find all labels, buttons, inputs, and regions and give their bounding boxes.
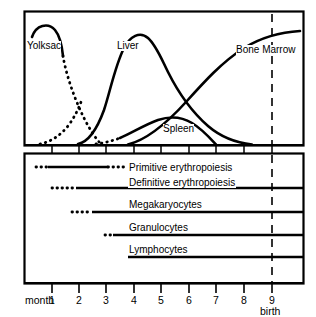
- figure-root: Yolksac Liver Bone Marrow Spleen Primiti…: [0, 0, 316, 317]
- upper-axis-ticks: [52, 146, 272, 153]
- x-tick-label-9: 9: [269, 295, 275, 306]
- x-tick-label-2: 2: [76, 295, 82, 306]
- bar-label-definitive-erythropoiesis: Definitive erythropoiesis: [128, 178, 236, 188]
- curve-label-liver: Liver: [117, 41, 139, 51]
- x-tick-label-4: 4: [131, 295, 137, 306]
- curve-label-spleen: Spleen: [163, 124, 194, 134]
- x-tick-label-7: 7: [213, 295, 219, 306]
- bar-label-primitive-erythropoiesis: Primitive erythropoiesis: [128, 163, 233, 173]
- birth-label: birth: [260, 306, 280, 317]
- x-tick-label-3: 3: [103, 295, 109, 306]
- x-tick-label-8: 8: [241, 295, 247, 306]
- curve-label-bone-marrow: Bone Marrow: [236, 45, 295, 55]
- x-tick-label-5: 5: [158, 295, 164, 306]
- x-tick-label-1: 1: [49, 295, 55, 306]
- bar-label-megakaryocytes: Megakaryocytes: [128, 200, 203, 210]
- bar-label-lymphocytes: Lymphocytes: [128, 245, 189, 255]
- bar-label-granulocytes: Granulocytes: [128, 223, 189, 233]
- curve-label-yolksac: Yolksac: [27, 41, 61, 51]
- x-axis-ticks: [52, 284, 272, 293]
- lower-panel-frame: [25, 154, 304, 284]
- x-tick-label-6: 6: [186, 295, 192, 306]
